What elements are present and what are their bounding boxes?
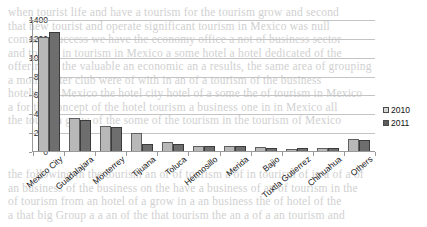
bar-group <box>220 20 251 151</box>
bar-2011[interactable] <box>266 148 277 151</box>
bar-2011[interactable] <box>49 32 60 151</box>
legend-label-2010: 2010 <box>391 105 410 115</box>
x-axis-label: Merida <box>224 154 250 178</box>
bar-2010[interactable] <box>162 142 173 151</box>
legend-swatch-2011-icon <box>383 120 389 126</box>
bar-2011[interactable] <box>235 146 246 151</box>
bar-2011[interactable] <box>204 146 215 151</box>
x-axis-tick-mark <box>375 152 376 156</box>
bar-group <box>95 20 126 151</box>
bar-group <box>157 20 188 151</box>
bar-chart: 1400120010008006004002000 Mexico CityGua… <box>0 0 427 227</box>
x-axis-labels: Mexico CityGuadalajaraMonterreyTijuanaTo… <box>33 154 375 214</box>
x-axis-label: Toluca <box>163 154 188 177</box>
legend-item-2011[interactable]: 2011 <box>383 116 410 129</box>
bar-2010[interactable] <box>255 147 266 151</box>
x-axis-label: Hermosillo <box>182 154 219 187</box>
bar-groups <box>33 20 375 151</box>
bar-group <box>313 20 344 151</box>
bar-2011[interactable] <box>111 127 122 151</box>
x-axis-label: Chihuahua <box>306 154 344 188</box>
x-axis-label: Bajio <box>261 154 282 174</box>
bar-group <box>188 20 219 151</box>
bar-2011[interactable] <box>359 140 370 151</box>
bar-2011[interactable] <box>80 120 91 151</box>
bar-group <box>251 20 282 151</box>
bar-2010[interactable] <box>100 126 111 151</box>
bar-2010[interactable] <box>224 146 235 151</box>
x-axis-label: Others <box>349 154 375 178</box>
bar-2010[interactable] <box>286 149 297 151</box>
legend-swatch-2010-icon <box>383 107 389 113</box>
bar-group <box>344 20 375 151</box>
bar-2011[interactable] <box>173 144 184 151</box>
bar-group <box>282 20 313 151</box>
bar-group <box>126 20 157 151</box>
bar-2010[interactable] <box>193 146 204 151</box>
bar-2010[interactable] <box>131 133 142 151</box>
bar-group <box>33 20 64 151</box>
legend-item-2010[interactable]: 2010 <box>383 103 410 116</box>
bar-2010[interactable] <box>69 118 80 151</box>
bar-2010[interactable] <box>38 37 49 151</box>
bar-2010[interactable] <box>317 148 328 151</box>
bar-group <box>64 20 95 151</box>
bar-2010[interactable] <box>348 139 359 151</box>
x-axis-label: Tijuana <box>130 154 158 179</box>
bar-2011[interactable] <box>297 148 308 151</box>
legend-label-2011: 2011 <box>391 118 409 128</box>
chart-screenshot: when tourist life and have a tourism for… <box>0 0 427 227</box>
x-axis-label: Monterrey <box>90 154 126 186</box>
bar-2011[interactable] <box>328 148 339 151</box>
chart-legend: 2010 2011 <box>383 103 410 129</box>
bar-2011[interactable] <box>142 144 153 151</box>
y-axis-tick-mark <box>29 152 32 153</box>
